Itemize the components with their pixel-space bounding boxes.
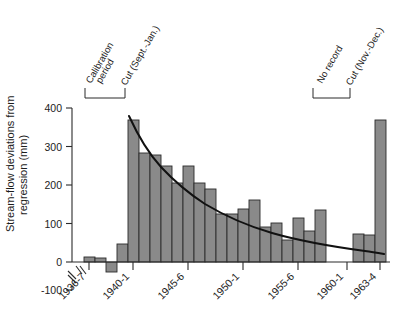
no-record-bracket (313, 88, 350, 98)
annotation-no-record: No record (313, 43, 350, 98)
x-tick-1963-4: 1963-4 (347, 270, 379, 302)
y-tick-100: 100 (44, 218, 62, 230)
chart-canvas: 400 300 200 100 0 -100 1936-7 1940-1 194… (0, 0, 398, 328)
y-axis-title-line2: regression (mm) (17, 135, 29, 215)
bar-1956-7 (304, 231, 315, 262)
x-tick-1955-6: 1955-6 (265, 270, 297, 302)
calibration-period-bracket (85, 88, 125, 98)
bar-1947-8 (205, 189, 216, 262)
bar-1939-40 (117, 244, 128, 262)
bar-1957-8 (315, 210, 326, 262)
x-axis (72, 262, 390, 270)
bar-1963-4 (375, 120, 386, 262)
bar-1936-7 (84, 257, 95, 262)
x-tick-labels: 1936-7 1940-1 1945-6 1950-1 1955-6 1960-… (56, 270, 379, 302)
bar-1948-9 (216, 214, 227, 262)
x-tick-1950-1: 1950-1 (210, 270, 242, 302)
y-tick-300: 300 (44, 141, 62, 153)
annotation-calibration-period: Calibration period (83, 40, 125, 98)
annotation-cut-nov-dec: Cut (Nov.-Dec.) (343, 25, 385, 87)
x-tick-1960-1: 1960-1 (314, 270, 346, 302)
y-axis (66, 108, 76, 290)
bar-1940-1 (128, 120, 139, 262)
bar-1937-8 (95, 258, 106, 262)
bar-1942-3 (150, 155, 161, 262)
bar-1954-5 (282, 240, 293, 262)
no-record-label: No record (314, 43, 344, 85)
y-tick-400: 400 (44, 102, 62, 114)
x-tick-1945-6: 1945-6 (155, 270, 187, 302)
bar-1962-3 (364, 235, 375, 262)
bar-1946-7 (194, 183, 205, 262)
y-axis-title: Stream-flow deviations from regression (… (4, 96, 29, 232)
bar-1938-9 (106, 262, 117, 272)
bar-1945-6 (183, 166, 194, 262)
bar-1953-4 (271, 223, 282, 262)
bar-1943-4 (161, 166, 172, 262)
bar-1944-5 (172, 183, 183, 262)
cut-nov-dec-label: Cut (Nov.-Dec.) (343, 25, 385, 87)
bar-1951-2 (249, 200, 260, 262)
cut-sept-jan-label: Cut (Sept.-Jan.) (118, 23, 161, 87)
annotation-cut-sept-jan: Cut (Sept.-Jan.) (118, 23, 161, 87)
y-tick-labels: 400 300 200 100 0 -100 (41, 102, 62, 296)
bar-1941-2 (139, 153, 150, 262)
bar-1961-2 (353, 234, 364, 262)
bar-series (84, 120, 386, 272)
chart-figure: 400 300 200 100 0 -100 1936-7 1940-1 194… (0, 0, 398, 328)
x-tick-1940-1: 1940-1 (100, 270, 132, 302)
y-tick-0: 0 (56, 256, 62, 268)
bar-1950-1 (238, 209, 249, 262)
y-tick-200: 200 (44, 179, 62, 191)
y-axis-title-line1: Stream-flow deviations from (4, 96, 16, 232)
